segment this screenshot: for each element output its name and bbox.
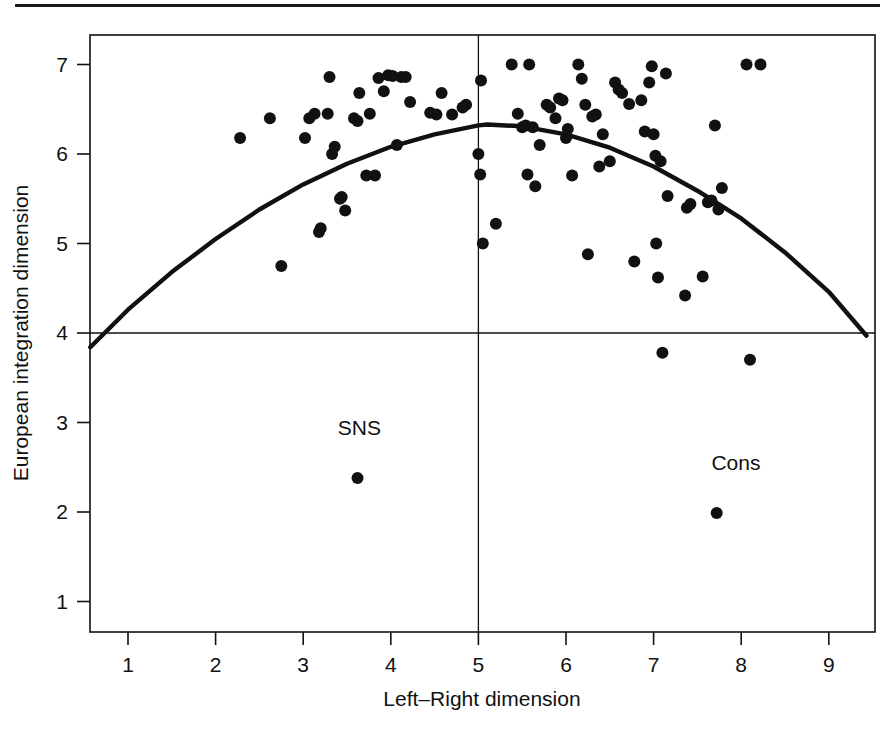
data-point bbox=[628, 255, 640, 267]
data-point bbox=[716, 182, 728, 194]
data-point bbox=[579, 99, 591, 111]
data-point bbox=[378, 85, 390, 97]
y-tick-label: 3 bbox=[56, 411, 68, 434]
data-point bbox=[522, 169, 534, 181]
data-point bbox=[679, 289, 691, 301]
data-point bbox=[506, 59, 518, 71]
data-point bbox=[648, 128, 660, 140]
data-point bbox=[684, 198, 696, 210]
data-point bbox=[593, 161, 605, 173]
data-point bbox=[512, 108, 524, 120]
data-point bbox=[755, 59, 767, 71]
scatter-plot: 123456789 1234567 SNSCons Left–Right dim… bbox=[0, 0, 894, 736]
data-point bbox=[709, 119, 721, 131]
x-tick-label: 4 bbox=[385, 653, 397, 676]
data-point bbox=[566, 170, 578, 182]
data-point bbox=[655, 155, 667, 167]
data-point bbox=[623, 98, 635, 110]
x-tick-label: 2 bbox=[210, 653, 222, 676]
data-point bbox=[744, 354, 756, 366]
data-point bbox=[400, 71, 412, 83]
y-tick-label: 7 bbox=[56, 53, 68, 76]
data-point bbox=[643, 76, 655, 88]
data-point bbox=[315, 222, 327, 234]
data-point bbox=[662, 190, 674, 202]
data-point bbox=[604, 155, 616, 167]
data-point bbox=[656, 347, 668, 359]
data-point bbox=[404, 96, 416, 108]
sns-point-label: SNS bbox=[338, 416, 381, 439]
data-point bbox=[353, 87, 365, 99]
data-point bbox=[557, 94, 569, 106]
data-point bbox=[391, 139, 403, 151]
data-point bbox=[475, 75, 487, 87]
data-point bbox=[322, 108, 334, 120]
data-point bbox=[364, 108, 376, 120]
data-point bbox=[234, 132, 246, 144]
data-point bbox=[550, 112, 562, 124]
y-tick-label: 4 bbox=[56, 321, 68, 344]
data-point bbox=[352, 115, 364, 127]
data-point bbox=[712, 204, 724, 216]
figure-container: 123456789 1234567 SNSCons Left–Right dim… bbox=[0, 0, 894, 736]
x-tick-label: 8 bbox=[735, 653, 747, 676]
x-tick-label: 6 bbox=[560, 653, 572, 676]
data-point bbox=[562, 123, 574, 135]
data-point bbox=[446, 109, 458, 121]
scatter-points-group bbox=[234, 59, 766, 366]
cons-point bbox=[711, 507, 723, 519]
y-tick-label: 2 bbox=[56, 500, 68, 523]
data-point bbox=[523, 59, 535, 71]
cons-point-label: Cons bbox=[711, 451, 760, 474]
x-axis-title: Left–Right dimension bbox=[383, 687, 580, 710]
data-point bbox=[339, 204, 351, 216]
data-point bbox=[490, 218, 502, 230]
data-point bbox=[264, 112, 276, 124]
data-point bbox=[576, 73, 588, 85]
data-point bbox=[646, 60, 658, 72]
data-point bbox=[582, 248, 594, 260]
data-point bbox=[436, 87, 448, 99]
data-point bbox=[534, 139, 546, 151]
data-point bbox=[635, 94, 647, 106]
x-tick-label: 9 bbox=[823, 653, 835, 676]
data-point bbox=[309, 108, 321, 120]
data-point bbox=[299, 132, 311, 144]
data-point bbox=[741, 59, 753, 71]
y-axis-title: European integration dimension bbox=[9, 185, 32, 482]
data-point bbox=[460, 99, 472, 111]
sns-point bbox=[352, 472, 364, 484]
x-tick-label: 5 bbox=[473, 653, 485, 676]
data-point bbox=[477, 238, 489, 250]
data-point bbox=[697, 271, 709, 283]
data-point bbox=[275, 260, 287, 272]
x-tick-label: 1 bbox=[122, 653, 134, 676]
data-point bbox=[544, 102, 556, 114]
data-point bbox=[336, 191, 348, 203]
y-tick-label: 6 bbox=[56, 142, 68, 165]
data-point bbox=[597, 128, 609, 140]
data-point bbox=[660, 67, 672, 79]
data-point bbox=[529, 180, 541, 192]
data-point bbox=[572, 59, 584, 71]
x-axis-ticks: 123456789 bbox=[122, 632, 834, 676]
data-point bbox=[590, 109, 602, 121]
data-point bbox=[650, 238, 662, 250]
data-point bbox=[324, 71, 336, 83]
data-point bbox=[369, 170, 381, 182]
data-point bbox=[472, 148, 484, 160]
data-point bbox=[474, 169, 486, 181]
x-tick-label: 7 bbox=[648, 653, 660, 676]
y-tick-label: 1 bbox=[56, 590, 68, 613]
data-point bbox=[329, 141, 341, 153]
labeled-points-group: SNSCons bbox=[338, 416, 761, 519]
x-tick-label: 3 bbox=[297, 653, 309, 676]
data-point bbox=[527, 121, 539, 133]
data-point bbox=[652, 272, 664, 284]
data-point bbox=[616, 87, 628, 99]
y-tick-label: 5 bbox=[56, 232, 68, 255]
y-axis-ticks: 1234567 bbox=[56, 53, 90, 613]
data-point bbox=[430, 109, 442, 121]
